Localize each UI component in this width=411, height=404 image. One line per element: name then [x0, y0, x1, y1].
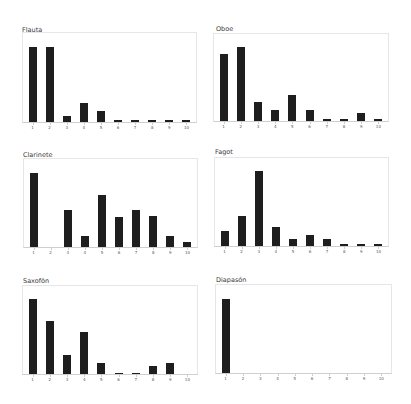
plot-area [23, 158, 198, 248]
bar [30, 173, 38, 247]
x-tick-label: 4 [79, 125, 89, 130]
x-tick-label: 9 [165, 377, 175, 382]
bar [97, 363, 105, 374]
x-tick-label: 4 [79, 377, 89, 382]
bar [80, 103, 88, 122]
x-tick-label: 7 [131, 377, 141, 382]
bar [254, 102, 262, 121]
bar [374, 119, 382, 121]
x-tick-label: 1 [220, 249, 230, 254]
x-tick-label: 1 [29, 250, 39, 255]
bar [272, 227, 280, 246]
x-tick-label: 9 [356, 249, 366, 254]
x-tick-label: 2 [45, 125, 55, 130]
bar [98, 195, 106, 247]
bar [182, 120, 190, 122]
chart-title: Fagot [215, 148, 233, 156]
x-tick-label: 5 [288, 249, 298, 254]
bar [288, 95, 296, 121]
x-tick-label: 6 [113, 125, 123, 130]
bar [115, 217, 123, 247]
x-tick-label: 10 [373, 249, 383, 254]
bar [340, 244, 348, 246]
x-tick-label: 4 [271, 249, 281, 254]
bar [114, 120, 122, 122]
x-tick-label: 10 [376, 376, 386, 381]
x-tick-label: 3 [253, 124, 263, 129]
bar [166, 236, 174, 247]
bar [222, 299, 230, 373]
x-tick-label: 2 [45, 377, 55, 382]
x-tick-label: 9 [164, 125, 174, 130]
bar [46, 47, 54, 122]
bar [80, 332, 88, 374]
bar [238, 216, 246, 246]
x-tick-label: 2 [238, 376, 248, 381]
x-tick-label: 3 [63, 250, 73, 255]
x-tick-label: 6 [305, 249, 315, 254]
x-tick-label: 6 [305, 124, 315, 129]
bar [183, 242, 191, 247]
bar [374, 244, 382, 246]
bar [306, 235, 314, 246]
bar [271, 110, 279, 121]
x-tick-label: 2 [236, 124, 246, 129]
bar [63, 355, 71, 374]
x-tick-label: 1 [28, 377, 38, 382]
bar [357, 113, 365, 121]
x-tick-label: 10 [182, 377, 192, 382]
bar [149, 216, 157, 247]
x-tick-label: 5 [96, 377, 106, 382]
bar [306, 110, 314, 121]
x-tick-label: 6 [114, 377, 124, 382]
bar [132, 373, 140, 374]
x-tick-label: 10 [182, 250, 192, 255]
x-tick-label: 4 [80, 250, 90, 255]
bar [115, 373, 123, 374]
bar [340, 119, 348, 121]
x-tick-label: 4 [273, 376, 283, 381]
bar [357, 244, 365, 246]
x-tick-label: 4 [270, 124, 280, 129]
x-tick-label: 9 [165, 250, 175, 255]
bar [323, 239, 331, 246]
x-tick-label: 9 [356, 124, 366, 129]
x-tick-label: 1 [219, 124, 229, 129]
x-tick-label: 10 [181, 125, 191, 130]
x-tick-label: 10 [373, 124, 383, 129]
x-tick-label: 6 [114, 250, 124, 255]
bar [255, 171, 263, 246]
x-tick-label: 8 [148, 250, 158, 255]
x-tick-label: 8 [339, 124, 349, 129]
bar [165, 120, 173, 122]
x-tick-label: 9 [359, 376, 369, 381]
bar [29, 299, 37, 374]
bar [166, 363, 174, 374]
x-tick-label: 7 [324, 376, 334, 381]
x-tick-label: 7 [130, 125, 140, 130]
x-tick-label: 3 [62, 125, 72, 130]
chart-title: Oboe [216, 25, 233, 33]
bar [237, 47, 245, 121]
x-tick-label: 8 [342, 376, 352, 381]
x-tick-label: 5 [97, 250, 107, 255]
bar [148, 120, 156, 122]
chart-title: Diapasón [216, 276, 246, 284]
bar [81, 236, 89, 247]
bar [323, 119, 331, 121]
x-tick-label: 8 [148, 377, 158, 382]
bar [221, 231, 229, 246]
x-tick-label: 7 [322, 249, 332, 254]
x-tick-label: 2 [237, 249, 247, 254]
plot-area [215, 284, 392, 374]
bar [29, 47, 37, 122]
bar [64, 210, 72, 247]
x-tick-label: 7 [322, 124, 332, 129]
bar [289, 239, 297, 246]
x-tick-label: 5 [290, 376, 300, 381]
bar [97, 111, 105, 122]
x-tick-label: 2 [46, 250, 56, 255]
bar [131, 120, 139, 122]
x-tick-label: 3 [255, 376, 265, 381]
bar [220, 54, 228, 121]
